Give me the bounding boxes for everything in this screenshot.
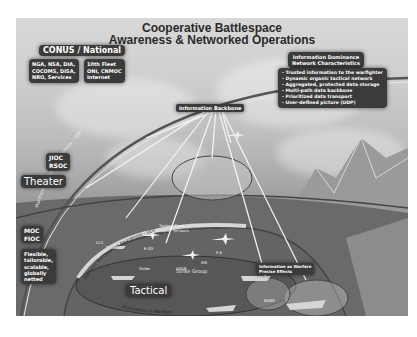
isr-label: ISR <box>201 260 207 265</box>
conus-header: CONUS / National <box>39 45 125 56</box>
ssgn-label: SSGN <box>176 266 187 271</box>
e2d-label: E-2D <box>144 246 153 251</box>
tactical-label: Tactical <box>126 284 171 297</box>
trait-line: scalable, <box>24 264 53 270</box>
information-backbone-label: Information Backbone <box>176 104 244 112</box>
conus-agencies: NGA, NSA, DIA, COCOMS, DISA, NRO, Servic… <box>29 59 79 83</box>
info-dominance-header: Information Dominance Network Characteri… <box>288 52 364 68</box>
diagram-canvas: Maritime Battlespace Awareness - UDP Mar… <box>16 18 408 316</box>
trait-line: netted <box>24 276 53 282</box>
theater-center-jioc: JIOC <box>49 154 67 162</box>
bams-label: BAMS <box>264 298 275 303</box>
precise-effects-text: Precise Effects <box>259 269 311 274</box>
conus-agency-line: NGA, NSA, DIA, <box>32 61 76 68</box>
tactical-fleet-network-label: Tactical Fleet Transport Network <box>154 224 189 233</box>
moc-centers: MOC FIOC <box>21 226 43 243</box>
moc-center: MOC <box>24 227 40 235</box>
trait-line: tailorable, <box>24 257 53 263</box>
info-dominance-subtitle: Network Characteristics <box>292 60 360 66</box>
theater-center-rsoc: RSOC <box>49 162 67 170</box>
characteristic-item: User-defined picture (UDP) <box>282 100 383 106</box>
conus-fleet-line: Internet <box>87 74 122 81</box>
lcs-label: LCS <box>96 240 103 245</box>
strike-label: Strike <box>139 266 150 271</box>
bubble-right <box>284 280 348 316</box>
info-warfare-box: Information as Warfare Precise Effects <box>256 263 314 275</box>
conus-agency-line: NRO, Services <box>32 74 76 81</box>
bubble-mid <box>246 278 290 310</box>
conus-fleet: 10th Fleet ONI, CNMOC Internet <box>84 59 125 83</box>
fioc-center: FIOC <box>24 235 40 243</box>
theater-label: Theater <box>21 175 66 188</box>
moc-traits: Flexible, tailorable, scalable, globally… <box>21 249 56 284</box>
f8-label: F-8 <box>216 250 222 255</box>
info-dominance-list: Trusted information to the warfighter Dy… <box>278 68 387 108</box>
transport-network-text: Transport Network <box>154 229 189 234</box>
diagram-title: Cooperative Battlespace Awareness & Netw… <box>16 22 408 46</box>
theater-centers: JIOC RSOC <box>46 153 70 171</box>
